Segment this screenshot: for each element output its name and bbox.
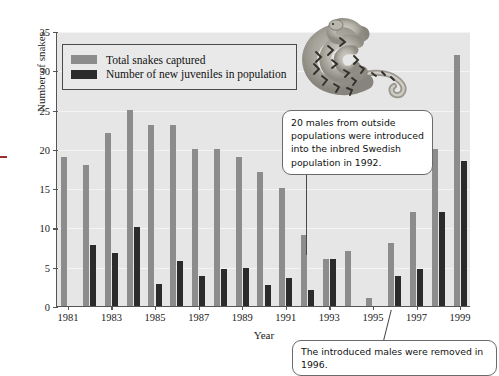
y-axis-tick-mark — [53, 71, 58, 72]
chart-legend: Total snakes captured Number of new juve… — [62, 44, 297, 90]
bar-1998-total — [432, 149, 438, 306]
legend-swatch-total-icon — [71, 55, 97, 64]
bar-1997-juveniles — [417, 269, 423, 306]
x-axis-tick-mark — [286, 306, 287, 310]
bar-1983-total — [105, 133, 111, 306]
bar-1993-juveniles — [330, 259, 336, 306]
y-axis-tick-mark — [53, 111, 58, 112]
x-axis-tick-mark — [111, 306, 112, 310]
bar-1988-juveniles — [221, 269, 227, 306]
x-axis-tick-label: 1989 — [219, 312, 265, 323]
x-axis-tick-label: 1987 — [176, 312, 222, 323]
y-axis-tick-label: 20 — [11, 144, 57, 155]
bar-1984-juveniles — [134, 227, 140, 306]
bar-1996-juveniles — [395, 276, 401, 306]
y-axis-tick-mark — [53, 189, 58, 190]
x-axis-tick-mark — [68, 306, 69, 310]
bar-1982-total — [83, 165, 89, 306]
bar-1982-juveniles — [90, 245, 96, 306]
x-axis-tick-mark — [417, 306, 418, 310]
y-axis-tick-label: 15 — [11, 184, 57, 195]
x-axis-tick-label: 1997 — [394, 312, 440, 323]
bar-1999-total — [454, 55, 460, 306]
legend-item-total: Total snakes captured — [71, 54, 286, 66]
y-axis-tick-label: 25 — [11, 105, 57, 116]
x-axis-tick-mark — [199, 306, 200, 310]
x-axis-tick-mark — [373, 306, 374, 310]
legend-label-juveniles: Number of new juveniles in population — [106, 68, 286, 80]
bar-1986-total — [170, 125, 176, 306]
callout-leader-line-introduced — [306, 175, 307, 255]
bar-1983-juveniles — [112, 253, 118, 306]
legend-label-total: Total snakes captured — [106, 54, 205, 66]
x-axis-tick-label: 1981 — [45, 312, 91, 323]
bar-1985-total — [148, 125, 154, 306]
bar-1995-total — [366, 298, 372, 306]
y-axis-tick-label: 0 — [11, 302, 57, 313]
y-axis-tick-mark — [53, 32, 58, 33]
y-axis-tick-mark — [53, 150, 58, 151]
bar-1992-juveniles — [308, 290, 314, 306]
y-axis-tick-label: 35 — [11, 27, 57, 38]
snake-illustration-icon — [292, 12, 414, 104]
bar-1988-total — [214, 149, 220, 306]
legend-item-juveniles: Number of new juveniles in population — [71, 68, 286, 80]
bar-1989-juveniles — [243, 268, 249, 307]
bar-1985-juveniles — [156, 284, 162, 306]
x-axis-tick-mark — [460, 306, 461, 310]
bar-1990-juveniles — [265, 285, 271, 306]
y-axis-tick-mark — [53, 307, 58, 308]
bar-1984-total — [127, 110, 133, 306]
x-axis-tick-label: 1985 — [132, 312, 178, 323]
bar-1987-total — [192, 149, 198, 306]
bar-1996-total — [388, 243, 394, 306]
bar-1999-juveniles — [461, 161, 467, 306]
gridline — [57, 228, 470, 229]
legend-swatch-juvenile-icon — [71, 70, 97, 79]
y-axis-tick-label: 5 — [11, 262, 57, 273]
bar-1990-total — [257, 172, 263, 306]
y-axis-tick-mark — [53, 268, 58, 269]
bar-1993-total — [323, 259, 329, 306]
bar-1994-total — [345, 251, 351, 306]
x-axis-tick-mark — [329, 306, 330, 310]
x-axis-tick-label: 1983 — [88, 312, 134, 323]
bar-1991-juveniles — [286, 278, 292, 306]
x-axis-tick-label: 1991 — [263, 312, 309, 323]
x-axis-tick-label: 1993 — [306, 312, 352, 323]
bar-1981-total — [61, 157, 67, 306]
bar-1998-juveniles — [439, 212, 445, 306]
gridline — [57, 268, 470, 269]
x-axis-tick-label: 1999 — [437, 312, 483, 323]
callout-males-introduced: 20 males from outside populations were i… — [282, 110, 433, 175]
x-axis-tick-mark — [155, 306, 156, 310]
bar-1986-juveniles — [177, 261, 183, 306]
bar-1989-total — [236, 157, 242, 306]
bar-1987-juveniles — [199, 276, 205, 306]
y-axis-tick-mark — [53, 228, 58, 229]
callout-males-removed: The introduced males were removed in 199… — [292, 340, 497, 376]
y-axis-tick-label: 30 — [11, 66, 57, 77]
bar-1991-total — [279, 188, 285, 306]
y-axis-tick-label: 10 — [11, 223, 57, 234]
x-axis-tick-mark — [242, 306, 243, 310]
bar-1997-total — [410, 212, 416, 306]
page-edge-mark — [0, 156, 7, 158]
gridline — [57, 189, 470, 190]
